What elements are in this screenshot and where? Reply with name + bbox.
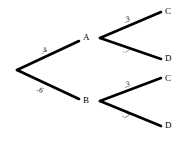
branch-a-to-c <box>100 12 161 38</box>
node-label-a: A <box>83 33 90 42</box>
branch-b-to-c <box>100 78 161 101</box>
node-label-b: B <box>83 96 89 105</box>
node-label-c-lower: C <box>165 74 171 83</box>
node-label-c-upper: C <box>165 7 171 16</box>
branch-root-to-a <box>17 41 79 70</box>
node-label-d-lower: D <box>165 121 172 130</box>
node-label-d-upper: D <box>165 54 172 63</box>
branch-root-to-b <box>17 70 79 99</box>
tree-diagram-canvas <box>0 0 187 142</box>
branch-a-to-d <box>100 38 161 59</box>
branch-b-to-d <box>100 101 161 126</box>
